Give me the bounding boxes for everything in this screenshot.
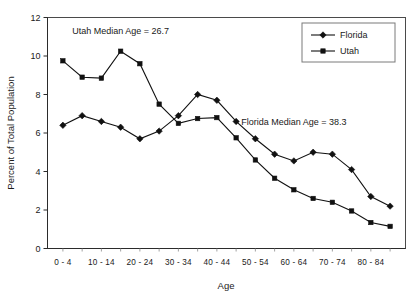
data-point-square [234,136,238,140]
x-axis-title: Age [218,280,235,291]
x-tick-label: 50 - 54 [242,258,269,267]
x-tick-label: 0 - 4 [54,258,72,267]
x-tick-label: 20 - 24 [126,258,153,267]
data-point-square [99,76,103,80]
y-axis-title: Percent of Total Population [5,76,16,189]
data-point-square [195,116,199,120]
x-tick-label: 30 - 34 [165,258,192,267]
data-point-square [388,224,392,228]
data-point-square [118,49,122,53]
data-point-square [138,62,142,66]
x-tick-label: 70 - 74 [319,258,346,267]
data-point-square [369,220,373,224]
x-tick-label: 80 - 84 [357,258,384,267]
chart-legend[interactable]: FloridaUtah [302,23,395,62]
y-tick-label: 4 [35,167,40,177]
data-point-square [215,115,219,119]
data-point-square [311,196,315,200]
data-point-square [157,102,161,106]
data-point-square [292,188,296,192]
legend-label-utah[interactable]: Utah [340,46,359,56]
y-tick-label: 2 [35,205,40,215]
data-point-square [61,59,65,63]
chart-annotation-1: Utah Median Age = 26.7 [72,26,169,36]
y-tick-label: 6 [35,128,40,138]
y-tick-label: 12 [30,13,40,23]
data-point-square [253,158,257,162]
y-tick-label: 10 [30,51,40,61]
data-point-square [80,75,84,79]
y-tick-label: 8 [35,90,40,100]
chart-annotation-2: Florida Median Age = 38.3 [241,117,346,127]
legend-label-florida[interactable]: Florida [340,30,368,40]
x-axis-tick-labels: 0 - 410 - 1420 - 2430 - 3440 - 4450 - 54… [54,258,384,267]
data-point-square [330,200,334,204]
data-point-square [349,209,353,213]
x-tick-label: 40 - 44 [203,258,230,267]
population-age-distribution-chart: 024681012 0 - 410 - 1420 - 2430 - 3440 -… [0,0,414,298]
x-tick-label: 60 - 64 [280,258,307,267]
x-tick-label: 10 - 14 [88,258,115,267]
data-point-square [272,176,276,180]
y-tick-label: 0 [35,244,40,254]
data-point-square [176,121,180,125]
chart-container: 024681012 0 - 410 - 1420 - 2430 - 3440 -… [0,0,414,298]
data-point-square [321,49,325,53]
